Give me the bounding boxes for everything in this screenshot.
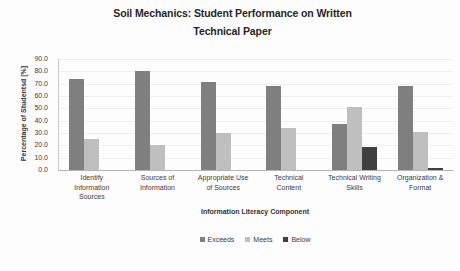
bar-meets[interactable] [150, 145, 165, 170]
chart-title: Soil Mechanics: Student Performance on W… [60, 4, 405, 40]
chart-legend: ExceedsMeetsBelow [58, 236, 452, 243]
legend-swatch-icon [200, 237, 205, 242]
y-axis-tick-label: 50.0 [8, 104, 48, 111]
x-axis-category-label: IdentifyInformationSources [56, 173, 128, 202]
x-axis-category-label-line: Sources [56, 192, 128, 202]
x-axis-category-label-line: of Sources [187, 183, 259, 193]
x-axis-category-label-line: Appropriate Use [187, 173, 259, 183]
legend-label: Below [291, 236, 310, 243]
x-axis-category-label: Organization &Format [384, 173, 456, 192]
bar-exceeds[interactable] [332, 124, 347, 170]
bar-meets[interactable] [413, 132, 428, 170]
y-axis-tick-label: 0.0 [8, 166, 48, 173]
x-axis-category-label-line: Technical Writing [318, 173, 390, 183]
legend-swatch-icon [283, 237, 288, 242]
y-axis-tick-label: 20.0 [8, 141, 48, 148]
x-axis-category-label-line: Skills [318, 183, 390, 193]
bar-group-bars [125, 59, 191, 170]
bar-exceeds[interactable] [69, 79, 84, 170]
bar-below[interactable] [362, 147, 377, 170]
y-axis-tick-label: 40.0 [8, 117, 48, 124]
x-axis-category-label-line: Technical [253, 173, 325, 183]
bar-meets[interactable] [216, 133, 231, 170]
bar-group-bars [59, 59, 125, 170]
y-axis-tick-label: 70.0 [8, 80, 48, 87]
legend-label: Exceeds [208, 236, 235, 243]
y-axis-tick-label: 60.0 [8, 92, 48, 99]
bar-exceeds[interactable] [398, 86, 413, 170]
bar-group: IdentifyInformationSources [59, 59, 125, 170]
legend-item-below[interactable]: Below [283, 236, 310, 243]
x-axis-category-label: TechnicalContent [253, 173, 325, 192]
bar-chart: Soil Mechanics: Student Performance on W… [0, 0, 460, 271]
bar-exceeds[interactable] [135, 71, 150, 170]
bar-exceeds[interactable] [201, 82, 216, 170]
legend-item-exceeds[interactable]: Exceeds [200, 236, 235, 243]
bar-group-bars [190, 59, 256, 170]
legend-label: Meets [253, 236, 272, 243]
bar-group-bars [387, 59, 453, 170]
bar-meets[interactable] [84, 139, 99, 170]
y-axis-tick-label: 80.0 [8, 67, 48, 74]
x-axis-category-label-line: Content [253, 183, 325, 193]
x-axis-category-label: Appropriate Useof Sources [187, 173, 259, 192]
legend-item-meets[interactable]: Meets [245, 236, 272, 243]
bar-group: Technical WritingSkills [322, 59, 388, 170]
bar-group: Appropriate Useof Sources [190, 59, 256, 170]
x-axis-category-label-line: Sources of [121, 173, 193, 183]
x-axis-category-label-line: Format [384, 183, 456, 193]
y-axis-tick-label: 30.0 [8, 129, 48, 136]
x-axis-title: Information Literacy Component [58, 208, 452, 215]
bar-group-bars [322, 59, 388, 170]
bar-group-bars [256, 59, 322, 170]
x-axis-category-label-line: Organization & [384, 173, 456, 183]
bar-group: TechnicalContent [256, 59, 322, 170]
y-axis-tick-label: 10.0 [8, 154, 48, 161]
x-axis-category-label: Technical WritingSkills [318, 173, 390, 192]
bar-meets[interactable] [281, 128, 296, 170]
x-axis-category-label-line: Information [121, 183, 193, 193]
bar-exceeds[interactable] [266, 86, 281, 170]
bar-group: Sources ofInformation [125, 59, 191, 170]
x-axis-category-label: Sources ofInformation [121, 173, 193, 192]
bar-group: Organization &Format [387, 59, 453, 170]
chart-title-line-2: Technical Paper [60, 22, 405, 40]
chart-title-line-1: Soil Mechanics: Student Performance on W… [113, 7, 352, 19]
x-axis-category-label-line: Information [56, 183, 128, 193]
bar-meets[interactable] [347, 107, 362, 170]
x-axis-category-label-line: Identify [56, 173, 128, 183]
y-axis-tick-label: 90.0 [8, 55, 48, 62]
legend-swatch-icon [245, 237, 250, 242]
bar-below[interactable] [428, 168, 443, 170]
plot-area: 90.080.070.060.050.040.030.020.010.00.0I… [58, 59, 453, 171]
